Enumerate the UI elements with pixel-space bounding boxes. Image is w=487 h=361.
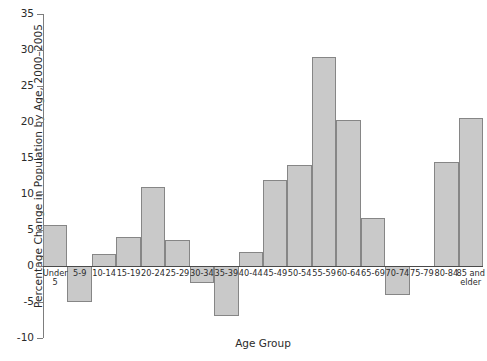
y-tick-mark [37, 122, 43, 123]
y-tick-label: 25 [21, 79, 34, 91]
y-tick-label: 20 [21, 115, 34, 127]
bar [287, 165, 311, 267]
y-tick: 15 [43, 158, 44, 159]
x-category-label: 85 and elder [456, 269, 486, 288]
x-axis-title: Age Group [43, 337, 483, 349]
y-tick: 20 [43, 122, 44, 123]
y-tick-label: 30 [21, 43, 34, 55]
y-tick-mark [37, 302, 43, 303]
y-tick: 10 [43, 194, 44, 195]
y-tick: 25 [43, 86, 44, 87]
y-tick-label: -5 [24, 295, 34, 307]
bar [165, 240, 189, 267]
y-tick-label: 35 [21, 7, 34, 19]
y-tick: 30 [43, 50, 44, 51]
y-tick-mark [37, 50, 43, 51]
bar [43, 225, 67, 267]
y-axis-line [43, 14, 44, 338]
y-tick-mark [37, 158, 43, 159]
y-tick-label: 0 [27, 259, 34, 271]
y-tick-label: -10 [17, 331, 34, 343]
y-tick-mark [37, 14, 43, 15]
y-tick-label: 5 [27, 223, 34, 235]
y-tick: 35 [43, 14, 44, 15]
bar [459, 118, 483, 267]
bar [263, 180, 287, 267]
y-tick-mark [37, 86, 43, 87]
y-tick-label: 10 [21, 187, 34, 199]
plot-area: 35302520151050-5-10 Under 55-910-1415-19… [43, 14, 483, 338]
zero-baseline [43, 266, 483, 267]
bar [239, 252, 263, 267]
y-tick-label: 15 [21, 151, 34, 163]
y-tick-mark [37, 194, 43, 195]
bar [141, 187, 165, 267]
bar [312, 57, 336, 267]
bar [336, 120, 360, 267]
y-tick: -5 [43, 302, 44, 303]
bar [116, 237, 140, 267]
bar [434, 162, 458, 267]
bar-chart: Percentage Change in Population by Age, … [0, 0, 487, 361]
bar [361, 218, 385, 267]
